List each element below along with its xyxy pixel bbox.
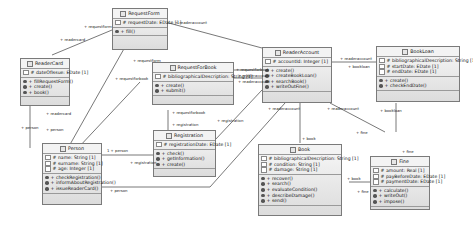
operation-icon (261, 194, 265, 198)
attribute-icon (115, 20, 121, 25)
attribute-icon (265, 59, 271, 64)
class-book[interactable]: Book # bibliographicalDescription: Strin… (258, 144, 342, 216)
operation-icon (373, 200, 377, 204)
role-label: + person (110, 188, 127, 193)
role-label: + requestforbook (115, 76, 148, 81)
operation-icon (379, 79, 383, 83)
attribute-icon (379, 69, 385, 74)
attribute-icon (373, 174, 379, 179)
role-label: + book (302, 136, 316, 141)
class-icon (275, 50, 281, 56)
operation-icon (45, 181, 49, 185)
operation-icon (155, 89, 159, 93)
class-requestforbook[interactable]: RequestForBook # bibliographicalDescript… (152, 62, 234, 105)
attribute-icon (155, 74, 161, 79)
role-label: + readeraccount (327, 106, 359, 111)
operation-icon (156, 152, 160, 156)
class-bookloan[interactable]: BookLoan # bibliographicalDescription: S… (376, 46, 460, 102)
role-label: + requestform (133, 58, 161, 63)
role-label: + readercard (60, 37, 85, 42)
attribute-icon (261, 156, 267, 161)
role-label: + fine (357, 189, 369, 194)
class-readeraccount[interactable]: ReaderAccount # accountId: Integer [1] +… (262, 47, 332, 103)
attribute-icon (261, 162, 267, 167)
operation-icon (373, 189, 377, 193)
role-label: + requestform (84, 24, 112, 29)
attribute-icon (45, 155, 51, 160)
operation-icon (23, 80, 27, 84)
role-label: + person (21, 125, 38, 130)
role-label: + registration (130, 160, 156, 165)
class-icon (166, 133, 172, 139)
class-icon (290, 147, 296, 153)
attribute-icon (45, 166, 51, 171)
attribute-icon (261, 167, 267, 172)
operation-icon (45, 176, 49, 180)
class-readercard[interactable]: ReaderCard # dateOfIssue: EDate [1] + fi… (20, 58, 70, 106)
role-label: + person (46, 127, 63, 132)
operation-icon (45, 187, 49, 191)
attribute-icon (373, 179, 379, 184)
class-requestform[interactable]: RequestForm # requestDate: EDate [1] + f… (112, 8, 168, 50)
attribute-icon (373, 168, 379, 173)
operation-icon (261, 188, 265, 192)
operation-icon (156, 157, 160, 161)
class-icon (170, 65, 176, 71)
role-label: + readeraccount (340, 56, 372, 61)
operation-icon (261, 182, 265, 186)
class-icon (60, 146, 66, 152)
operation-icon (155, 84, 159, 88)
role-label: + book (347, 176, 361, 181)
operation-icon (373, 194, 377, 198)
role-label: + requestforbook (172, 110, 205, 115)
operation-icon (156, 163, 160, 167)
attribute-icon (45, 161, 51, 166)
role-label: + requestforbook (236, 67, 269, 72)
role-label: + readercard (46, 111, 71, 116)
operation-icon (23, 91, 27, 95)
class-person[interactable]: Person # name: String [1] # surname: Str… (42, 143, 102, 205)
role-label: + registration (172, 122, 198, 127)
role-label: + readeraccount (238, 73, 270, 78)
class-icon (120, 11, 126, 17)
class-fine[interactable]: Fine # amount: Real [1] # payBeforeDate:… (370, 156, 430, 210)
operation-icon (115, 30, 119, 34)
class-icon (391, 159, 397, 165)
attribute-icon (379, 64, 385, 69)
role-label: + fine (402, 149, 414, 154)
role-label: + readeraccount (175, 20, 207, 25)
operation-icon (379, 84, 383, 88)
attribute-icon (23, 70, 29, 75)
class-icon (402, 49, 408, 55)
role-label: + registration (217, 118, 243, 123)
attribute-icon (379, 58, 385, 63)
role-label: + bookloan (348, 64, 370, 69)
operation-icon (265, 85, 269, 89)
role-label: + readeraccount (268, 106, 300, 111)
operation-icon (23, 85, 27, 89)
class-icon (27, 61, 33, 67)
class-registration[interactable]: Registration # registrationDate: EDate [… (153, 130, 216, 177)
operation-icon (261, 199, 265, 203)
role-label: + fine (356, 130, 368, 135)
role-label: + bookloan (380, 108, 402, 113)
operation-icon (261, 177, 265, 181)
role-label: + readeraccount (238, 79, 270, 84)
role-label: 1 + person (107, 148, 128, 153)
attribute-icon (156, 142, 162, 147)
